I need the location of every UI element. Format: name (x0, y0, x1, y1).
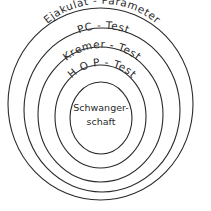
label-schwangerschaft-line2: schaft (87, 116, 116, 127)
label-schwangerschaft-line1: Schwanger- (73, 102, 129, 113)
label-hop-test: H O P - Test (65, 56, 139, 80)
label-pc-test: PC - Test (76, 19, 132, 36)
concentric-circles-diagram: Ejakulat - Parameter PC - Test Kremer - … (0, 0, 211, 211)
